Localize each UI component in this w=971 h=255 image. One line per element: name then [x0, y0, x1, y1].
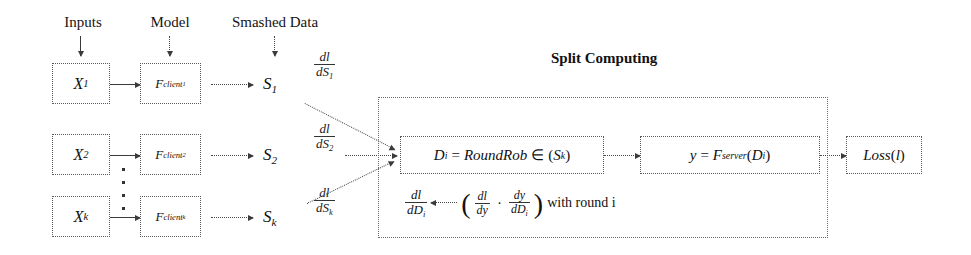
backprop-term1-numerator: dl — [475, 190, 490, 203]
client-model-index-1: 1 — [182, 80, 185, 87]
client-model-box-2: Fclient2 — [140, 134, 201, 175]
vertical-ellipsis-inputs — [121, 168, 125, 210]
gradient-den-symbol-2: dS — [316, 136, 329, 151]
forward-arg: D — [752, 147, 763, 164]
backprop-term2-den-symbol: dD — [511, 202, 526, 216]
backprop-lhs-den-subscript: i — [423, 208, 425, 218]
round-robin-operator: ∈ — [527, 146, 548, 164]
backprop-equation: dl dDi ( dl dy · dy dDi ) with round i — [405, 188, 616, 218]
arrow-input-to-model-2 — [110, 155, 140, 157]
gradient-denominator-1: dS1 — [314, 64, 335, 81]
client-model-index-2: 2 — [182, 151, 185, 158]
input-subscript-1: 1 — [83, 78, 88, 89]
round-robin-function: RoundRob — [464, 147, 527, 164]
arrow-forward-to-loss — [820, 155, 846, 157]
gradient-denominator-k: dSk — [314, 200, 335, 217]
arrow-roundrobin-to-forward — [604, 155, 640, 157]
backprop-term1-denominator: dy — [475, 203, 490, 217]
server-forward-box: y=Fserver(Di) — [640, 136, 820, 174]
backprop-term2-den-subscript: i — [526, 208, 528, 217]
smashed-subscript-2: 2 — [272, 154, 278, 166]
loss-function: Loss — [863, 147, 891, 164]
arrow-model-to-smashed-2 — [211, 155, 253, 157]
smashed-symbol-2: S — [263, 145, 272, 164]
column-header-inputs: Inputs — [48, 14, 118, 31]
forward-function: F — [713, 147, 722, 164]
gradient-numerator-1: dl — [314, 50, 335, 64]
gradient-denominator-2: dS2 — [314, 136, 335, 153]
smashed-data-label-k: Sk — [263, 207, 276, 228]
round-robin-lhs: D — [434, 147, 445, 164]
arrow-model-to-smashed-k — [211, 217, 253, 219]
smashed-subscript-k: k — [272, 216, 277, 228]
client-model-symbol-2: F — [155, 147, 163, 163]
input-subscript-2: 2 — [83, 149, 88, 160]
column-header-model: Model — [133, 14, 207, 31]
client-model-box-1: Fclient1 — [140, 63, 201, 104]
header-arrow-model — [169, 36, 171, 56]
round-robin-box: Di=RoundRob∈(Sk) — [400, 136, 604, 174]
gradient-den-subscript-k: k — [329, 206, 333, 216]
backprop-paren-open: ( — [461, 191, 470, 216]
smashed-subscript-1: 1 — [272, 83, 278, 95]
backprop-paren-close: ) — [534, 191, 543, 216]
client-model-box-k: Fclientk — [140, 196, 201, 237]
backprop-multiply: · — [494, 195, 505, 212]
smashed-data-label-2: S2 — [263, 145, 277, 166]
header-arrow-smashed-data — [274, 36, 276, 56]
backprop-left-arrow — [431, 202, 457, 204]
diagram-canvas: Inputs Model Smashed Data X1 Fclient1 S1… — [0, 0, 971, 255]
backprop-suffix: with round i — [547, 195, 615, 211]
client-model-symbol-1: F — [155, 76, 163, 92]
arrow-model-to-smashed-1 — [211, 84, 253, 86]
forward-lhs: y — [690, 147, 697, 164]
client-model-subscript-1: client — [163, 79, 182, 89]
arrow-input-to-model-1 — [110, 84, 140, 86]
round-robin-equals: = — [447, 147, 463, 164]
input-box-2: X2 — [52, 134, 110, 175]
client-model-symbol-k: F — [156, 209, 164, 225]
input-symbol-2: X — [73, 146, 83, 164]
backprop-lhs-denominator: dDi — [405, 202, 427, 219]
smashed-symbol-k: S — [263, 207, 272, 226]
gradient-den-subscript-2: 2 — [329, 142, 333, 152]
loss-paren-close: ) — [900, 147, 905, 164]
forward-equals: = — [696, 147, 712, 164]
input-box-1: X1 — [52, 63, 110, 104]
forward-function-subscript: server — [722, 150, 747, 161]
client-model-index-k: k — [183, 213, 186, 220]
smashed-symbol-1: S — [263, 74, 272, 93]
backprop-term2-numerator: dy — [509, 189, 530, 202]
header-arrow-inputs — [80, 36, 82, 56]
gradient-label-2: dl dS2 — [314, 122, 335, 152]
client-model-subscript-k: client — [164, 212, 183, 222]
gradient-den-symbol-1: dS — [316, 64, 329, 79]
backprop-term2-denominator: dDi — [509, 202, 530, 218]
client-model-subscript-2: client — [163, 150, 182, 160]
arrow-input-to-model-k — [110, 217, 140, 219]
input-symbol-1: X — [73, 75, 83, 93]
backprop-lhs-numerator: dl — [405, 188, 427, 202]
gradient-label-1: dl dS1 — [314, 50, 335, 80]
split-computing-title: Split Computing — [551, 50, 657, 67]
forward-paren-close: ) — [765, 147, 770, 164]
gradient-numerator-2: dl — [314, 122, 335, 136]
loss-box: Loss(l) — [846, 136, 922, 174]
gradient-den-subscript-1: 1 — [329, 70, 333, 80]
round-robin-paren-close: ) — [565, 147, 570, 164]
column-header-smashed-data: Smashed Data — [210, 14, 340, 31]
gradient-den-symbol-k: dS — [316, 200, 329, 215]
backprop-lhs-den-symbol: dD — [407, 202, 423, 217]
input-symbol-k: X — [74, 208, 84, 226]
smashed-data-label-1: S1 — [263, 74, 277, 95]
round-robin-arg: S — [553, 147, 561, 164]
input-box-k: Xk — [52, 196, 110, 237]
input-subscript-k: k — [84, 211, 89, 222]
